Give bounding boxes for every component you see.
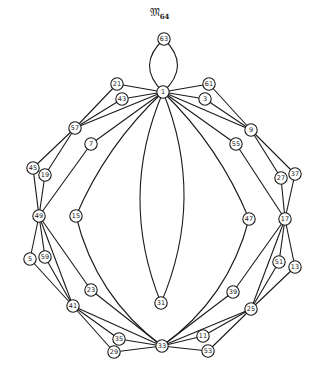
node-1: 1 [157,86,169,98]
node-label: 35 [115,335,123,343]
node-label: 23 [87,286,95,294]
edge-29-33 [114,346,162,352]
node-39: 39 [227,286,239,298]
node-label: 19 [41,171,49,179]
node-7: 7 [85,138,97,150]
node-13: 13 [289,261,301,273]
node-61: 61 [203,78,215,90]
node-label: 7 [89,140,93,148]
node-label: 59 [41,253,49,261]
node-label: 5 [28,255,32,263]
node-label: 29 [110,348,118,356]
edge-57-19 [45,128,75,175]
edge-9-27 [251,130,281,178]
node-23: 23 [85,284,97,296]
edge-3-9 [205,99,251,130]
edge-1-15 [76,92,163,216]
node-label: 61 [205,80,213,88]
node-47: 47 [243,213,255,225]
edge-51-25 [251,262,279,309]
node-label: 3 [203,95,207,103]
node-53: 53 [202,345,214,357]
graph-diagram: 6312143613579755451927374915471755951132… [0,0,319,375]
node-33: 33 [156,340,168,352]
edge-5-41 [30,259,73,306]
node-21: 21 [111,78,123,90]
node-label: 1 [161,88,165,96]
edge-1-31 [140,92,163,303]
edge-63-1 [163,39,178,92]
node-label: 33 [158,342,166,350]
node-11: 11 [197,330,209,342]
node-label: 43 [118,95,126,103]
node-25: 25 [245,303,257,315]
node-label: 45 [29,164,37,172]
edge-45-49 [33,168,39,216]
node-label: 31 [157,299,165,307]
node-63: 63 [158,33,170,45]
node-label: 39 [229,288,237,296]
node-45: 45 [27,162,39,174]
node-31: 31 [155,297,167,309]
edge-17-13 [285,219,295,267]
node-label: 49 [35,212,43,220]
node-3: 3 [199,93,211,105]
node-43: 43 [116,93,128,105]
node-17: 17 [279,213,291,225]
node-27: 27 [275,172,287,184]
node-label: 57 [71,124,79,132]
node-label: 21 [113,80,121,88]
node-label: 15 [72,212,80,220]
node-label: 17 [281,215,289,223]
edge-9-37 [251,130,295,174]
node-19: 19 [39,169,51,181]
node-label: 51 [275,258,283,266]
node-15: 15 [70,210,82,222]
node-label: 47 [245,215,253,223]
node-label: 55 [232,140,240,148]
edge-61-9 [209,84,251,130]
edge-63-1 [149,39,164,92]
edge-57-45 [33,128,75,168]
node-label: 41 [69,302,77,310]
node-57: 57 [69,122,81,134]
node-37: 37 [289,168,301,180]
node-label: 13 [291,263,299,271]
edge-41-35 [73,306,119,339]
edge-47-33 [162,219,249,346]
node-55: 55 [230,138,242,150]
node-9: 9 [245,124,257,136]
node-49: 49 [33,210,45,222]
edge-1-21 [117,84,163,92]
edge-59-41 [45,257,73,306]
edge-13-25 [251,267,295,309]
edge-1-31 [161,92,184,303]
node-35: 35 [113,333,125,345]
node-label: 37 [291,170,299,178]
graph-nodes: 6312143613579755451927374915471755951132… [24,33,301,358]
node-label: 9 [249,126,253,134]
node-label: 53 [204,347,212,355]
node-51: 51 [273,256,285,268]
edge-41-29 [73,306,114,352]
edge-53-33 [162,346,208,351]
node-59: 59 [39,251,51,263]
node-label: 27 [277,174,285,182]
node-label: 25 [247,305,255,313]
node-label: 11 [199,332,207,340]
node-41: 41 [67,300,79,312]
node-label: 63 [160,35,168,43]
node-5: 5 [24,253,36,265]
node-29: 29 [108,346,120,358]
